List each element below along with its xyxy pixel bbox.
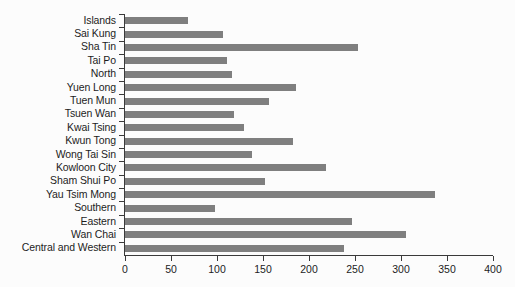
category-label: Kwai Tsing <box>0 122 116 133</box>
category-label: Kwun Tong <box>0 135 116 146</box>
x-axis-tick <box>309 256 310 261</box>
category-label: Sai Kung <box>0 28 116 39</box>
y-axis-tick <box>119 175 124 176</box>
category-label: North <box>0 68 116 79</box>
category-label: Eastern <box>0 216 116 227</box>
x-axis-tick <box>125 256 126 261</box>
bar <box>125 71 232 78</box>
bar <box>125 17 188 24</box>
category-label: Wong Tai Sin <box>0 149 116 160</box>
category-label: Kowloon City <box>0 162 116 173</box>
bar <box>125 164 326 171</box>
y-axis-tick <box>119 54 124 55</box>
y-axis-tick <box>119 242 124 243</box>
y-axis-tick <box>119 135 124 136</box>
bar <box>125 138 293 145</box>
bar <box>125 231 406 238</box>
bar-chart: IslandsSai KungSha TinTai PoNorthYuen Lo… <box>0 0 515 287</box>
bar <box>125 98 269 105</box>
bar <box>125 31 223 38</box>
category-label: Southern <box>0 202 116 213</box>
category-label: Sham Shui Po <box>0 175 116 186</box>
bar <box>125 44 358 51</box>
bar <box>125 151 252 158</box>
bar <box>125 205 215 212</box>
bar <box>125 111 234 118</box>
x-axis-tick-label: 300 <box>392 263 410 275</box>
y-axis-tick <box>119 215 124 216</box>
y-axis-line <box>124 14 125 255</box>
x-axis-tick-label: 100 <box>208 263 226 275</box>
y-axis-tick <box>119 148 124 149</box>
category-label: Tsuen Wan <box>0 108 116 119</box>
y-axis-tick <box>119 201 124 202</box>
category-label: Islands <box>0 15 116 26</box>
y-axis-tick <box>119 41 124 42</box>
bar <box>125 57 227 64</box>
y-axis-tick <box>119 27 124 28</box>
x-axis-tick-label: 50 <box>165 263 177 275</box>
bar <box>125 84 296 91</box>
x-axis-tick <box>355 256 356 261</box>
x-axis-tick-label: 150 <box>254 263 272 275</box>
bar <box>125 178 265 185</box>
x-axis-tick-label: 400 <box>484 263 502 275</box>
y-axis-tick <box>119 161 124 162</box>
y-axis-tick <box>119 121 124 122</box>
y-axis-tick <box>119 81 124 82</box>
x-axis-tick-label: 350 <box>438 263 456 275</box>
category-label: Central and Western <box>0 242 116 253</box>
x-axis-tick <box>171 256 172 261</box>
x-axis-tick <box>493 256 494 261</box>
category-label: Sha Tin <box>0 41 116 52</box>
bar <box>125 218 352 225</box>
bar <box>125 124 244 131</box>
category-axis: IslandsSai KungSha TinTai PoNorthYuen Lo… <box>0 14 120 255</box>
x-axis-tick <box>217 256 218 261</box>
category-label: Tai Po <box>0 55 116 66</box>
category-label: Yuen Long <box>0 82 116 93</box>
x-axis-tick <box>447 256 448 261</box>
bar <box>125 245 344 252</box>
y-axis-tick <box>119 14 124 15</box>
y-axis-tick <box>119 228 124 229</box>
plot-area <box>125 14 493 255</box>
x-axis-tick-label: 200 <box>300 263 318 275</box>
category-label: Wan Chai <box>0 229 116 240</box>
x-axis-tick <box>401 256 402 261</box>
bar <box>125 191 435 198</box>
x-axis-tick <box>263 256 264 261</box>
category-label: Tuen Mun <box>0 95 116 106</box>
y-axis-tick <box>119 108 124 109</box>
x-axis-tick-label: 0 <box>122 263 128 275</box>
x-axis-tick-label: 250 <box>346 263 364 275</box>
category-label: Yau Tsim Mong <box>0 189 116 200</box>
y-axis-tick <box>119 68 124 69</box>
y-axis-tick <box>119 188 124 189</box>
y-axis-tick <box>119 94 124 95</box>
